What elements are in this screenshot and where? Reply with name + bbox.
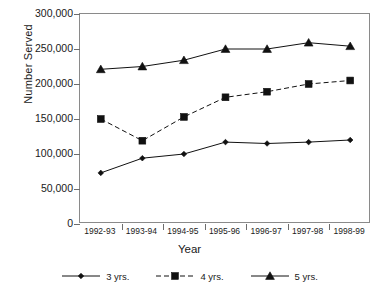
y-axis-tick-label: 100,000 xyxy=(5,148,73,158)
y-axis-tick-label: 50,000 xyxy=(5,183,73,193)
y-axis-tick-label: 250,000 xyxy=(5,43,73,53)
y-axis-title: Number Served xyxy=(22,4,34,124)
legend-label: 4 yrs. xyxy=(200,271,223,282)
data-point xyxy=(264,88,271,95)
y-axis-tick xyxy=(74,84,80,85)
y-axis-tick xyxy=(74,14,80,15)
data-point xyxy=(305,81,312,88)
legend-item-2[interactable]: 4 yrs. xyxy=(155,270,223,282)
legend-swatch xyxy=(250,270,290,282)
data-point xyxy=(223,139,229,145)
y-axis-tick xyxy=(74,189,80,190)
chart-figure: Number Served 050,000100,000150,000200,0… xyxy=(0,0,379,295)
series-layer xyxy=(80,14,371,224)
data-point xyxy=(181,151,187,157)
square-marker xyxy=(172,273,179,280)
data-point xyxy=(140,155,146,161)
diamond-marker xyxy=(78,273,84,279)
data-point xyxy=(139,137,146,144)
y-axis-tick-label: 200,000 xyxy=(5,78,73,88)
data-point xyxy=(264,141,270,147)
legend-label: 3 yrs. xyxy=(106,271,129,282)
legend-item-3[interactable]: 5 yrs. xyxy=(250,270,318,282)
series-2 xyxy=(97,77,353,144)
series-3 xyxy=(96,39,354,73)
data-point xyxy=(97,116,104,123)
data-point xyxy=(306,139,312,145)
x-axis-title: Year xyxy=(0,243,379,255)
data-point xyxy=(98,170,104,176)
y-axis-tick xyxy=(74,154,80,155)
legend-swatch xyxy=(61,270,101,282)
data-point xyxy=(347,77,354,84)
y-axis-tick-label: 150,000 xyxy=(5,113,73,123)
y-axis-tick xyxy=(74,49,80,50)
data-point xyxy=(222,94,229,101)
y-axis-tick-label: 0 xyxy=(5,218,73,228)
legend-item-1[interactable]: 3 yrs. xyxy=(61,270,129,282)
chart-legend: 3 yrs.4 yrs.5 yrs. xyxy=(0,270,379,282)
y-axis-tick xyxy=(74,119,80,120)
data-point xyxy=(347,137,353,143)
x-axis-tick-label: 1998-99 xyxy=(322,226,376,236)
data-point xyxy=(181,114,188,121)
series-1 xyxy=(98,137,353,176)
plot-area xyxy=(79,13,370,223)
y-axis-tick xyxy=(74,224,80,225)
y-axis-tick-label: 300,000 xyxy=(5,8,73,18)
series-line xyxy=(101,81,350,141)
data-point xyxy=(304,39,313,47)
legend-label: 5 yrs. xyxy=(295,271,318,282)
legend-swatch xyxy=(155,270,195,282)
